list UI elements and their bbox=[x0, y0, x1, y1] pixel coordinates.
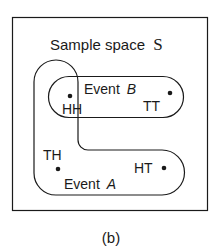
event-a-label: Event A bbox=[64, 176, 116, 192]
outcome-label-tt: TT bbox=[143, 98, 161, 114]
event-b-label: Event B bbox=[84, 81, 136, 97]
outcome-point-tt bbox=[168, 91, 173, 96]
outcome-point-th bbox=[56, 167, 61, 172]
outcome-point-hh bbox=[68, 94, 73, 99]
outcome-label-ht: HT bbox=[134, 160, 153, 176]
sample-space-symbol: S bbox=[153, 35, 162, 54]
figure-caption: (b) bbox=[102, 229, 120, 246]
sample-space-title: Sample space S bbox=[50, 35, 163, 54]
outcome-label-th: TH bbox=[43, 147, 62, 163]
outcome-point-ht bbox=[162, 166, 167, 171]
venn-diagram: Sample space S Event B Event A HH TT TH … bbox=[0, 0, 222, 251]
outcome-label-hh: HH bbox=[62, 101, 82, 117]
